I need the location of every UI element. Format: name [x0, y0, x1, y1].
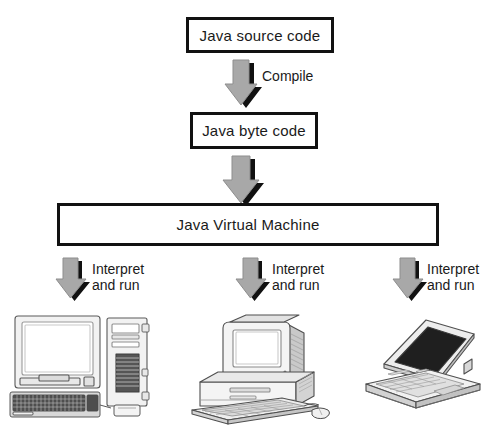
arrow-interpret-1 [55, 256, 89, 301]
arrow-to-jvm [222, 154, 262, 206]
illustration-desktop-computer-tower [6, 312, 156, 424]
box-java-source-code: Java source code [186, 17, 334, 53]
diagram-canvas: Java source code Compile Java byte code … [0, 0, 493, 430]
arrow-compile-label: Compile [262, 68, 313, 84]
illustration-laptop-computer [360, 312, 488, 416]
box-java-virtual-machine-label: Java Virtual Machine [177, 217, 320, 232]
arrow-interpret-2 [235, 256, 269, 301]
arrow-interpret-3 [392, 256, 426, 301]
box-java-source-code-label: Java source code [200, 28, 321, 43]
arrow-interpret-2-label: Interpret and run [272, 261, 324, 293]
box-java-byte-code-label: Java byte code [202, 123, 306, 138]
arrow-compile [224, 58, 260, 108]
arrow-interpret-3-label: Interpret and run [427, 261, 479, 293]
box-java-virtual-machine: Java Virtual Machine [57, 203, 439, 246]
arrow-interpret-1-label: Interpret and run [92, 261, 144, 293]
illustration-desktop-computer-flat [186, 310, 336, 428]
box-java-byte-code: Java byte code [190, 112, 318, 149]
